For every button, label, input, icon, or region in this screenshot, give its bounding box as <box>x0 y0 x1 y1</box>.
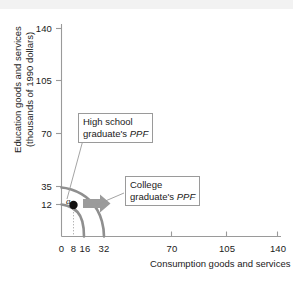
college-ppf-callout: College graduate's PPF <box>125 176 200 206</box>
y-axis-ticks <box>56 29 62 205</box>
ppf-chart-figure: 140 105 70 35 12 0 8 16 32 70 105 140 Ed… <box>0 0 293 282</box>
y-axis-title: Education goods and services (thousands … <box>12 25 35 155</box>
y-axis-title-line2: (thousands of 1990 dollars) <box>23 32 34 147</box>
college-callout-line1: College <box>130 179 162 190</box>
point-a-label: a <box>66 196 71 206</box>
y-axis-title-line1: Education goods and services <box>12 26 23 153</box>
y-tick-label-12: 12 <box>14 199 52 210</box>
x-axis-ticks <box>172 232 278 237</box>
college-callout-ppf: PPF <box>177 191 195 202</box>
y-tick-label-35: 35 <box>14 181 52 192</box>
high-school-ppf-callout: High school graduate's PPF <box>78 113 153 143</box>
college-callout-line2: graduate's <box>130 191 177 202</box>
x-tick-label-32: 32 <box>96 243 112 254</box>
x-tick-label-16: 16 <box>77 243 93 254</box>
high-school-callout-ppf: PPF <box>130 128 148 139</box>
x-axis-title: Consumption goods and services <box>150 258 290 269</box>
high-school-ppf-curve <box>62 205 85 237</box>
x-tick-label-105: 105 <box>217 243 237 254</box>
high-school-callout-line1: High school <box>83 116 133 127</box>
high-school-callout-line2: graduate's <box>83 128 130 139</box>
x-tick-label-140: 140 <box>268 243 288 254</box>
x-tick-label-70: 70 <box>164 243 180 254</box>
